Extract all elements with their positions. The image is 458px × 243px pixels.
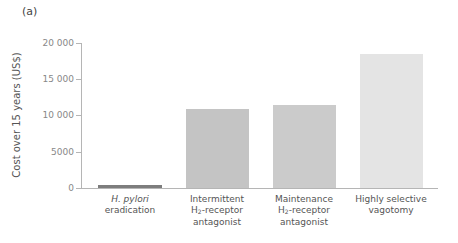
y-tick-label: 0 bbox=[68, 183, 74, 193]
y-tick bbox=[76, 152, 81, 153]
y-tick-label: 15 000 bbox=[43, 74, 75, 84]
x-label-line1: Highly selective bbox=[355, 194, 426, 204]
y-tick-label: 20 000 bbox=[43, 38, 75, 48]
x-label-line1: Intermittent bbox=[190, 194, 244, 204]
x-label-receptor: -receptor bbox=[289, 205, 330, 215]
x-label-line3: antagonist bbox=[280, 217, 328, 227]
x-label-maintenance: Maintenance H2-receptor antagonist bbox=[259, 194, 349, 228]
bar-maintenance-h2ra bbox=[273, 105, 336, 188]
x-label-receptor: -receptor bbox=[202, 205, 243, 215]
x-label-line3: antagonist bbox=[193, 217, 241, 227]
y-tick-label: 5000 bbox=[51, 147, 74, 157]
panel-label: (a) bbox=[22, 5, 37, 18]
bar-highly-selective-vagotomy bbox=[360, 54, 423, 188]
bar-h-pylori-eradication bbox=[98, 185, 162, 188]
x-label-line1: H. pylori bbox=[111, 194, 149, 204]
x-label-h: H bbox=[191, 205, 198, 215]
x-label-line2: eradication bbox=[105, 205, 156, 215]
x-label-vagotomy: Highly selective vagotomy bbox=[346, 194, 436, 216]
y-tick bbox=[76, 79, 81, 80]
x-axis-line bbox=[81, 188, 438, 189]
y-axis-title: Cost over 15 years (US$) bbox=[11, 52, 22, 177]
x-label-line1: Maintenance bbox=[275, 194, 333, 204]
y-axis-line bbox=[81, 43, 82, 188]
x-label-line2: vagotomy bbox=[368, 205, 413, 215]
x-label-intermittent: Intermittent H2-receptor antagonist bbox=[172, 194, 262, 228]
bar-intermittent-h2ra bbox=[186, 109, 249, 188]
y-tick-label: 10 000 bbox=[43, 110, 75, 120]
y-tick bbox=[76, 43, 81, 44]
x-label-h: H bbox=[278, 205, 285, 215]
y-tick bbox=[76, 115, 81, 116]
x-label-h-pylori: H. pylori eradication bbox=[85, 194, 175, 216]
y-tick bbox=[76, 188, 81, 189]
